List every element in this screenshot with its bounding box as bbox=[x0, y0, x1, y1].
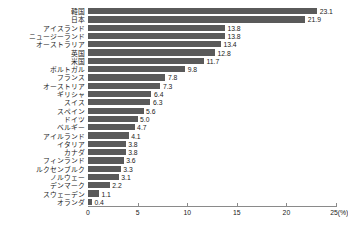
value-label: 11.7 bbox=[207, 57, 220, 64]
bar-row: オランダ0.4 bbox=[88, 198, 336, 206]
cropped-title-remnant bbox=[88, 0, 336, 5]
bar-row: オーストラリア13.4 bbox=[88, 40, 336, 48]
x-axis-tick-label: 10 bbox=[183, 209, 191, 217]
value-label: 21.9 bbox=[308, 16, 321, 23]
bar bbox=[88, 8, 317, 14]
bar bbox=[88, 116, 138, 122]
category-label: デンマーク bbox=[50, 182, 85, 189]
bar-row: 日本21.9 bbox=[88, 15, 336, 23]
bar-row: デンマーク2.2 bbox=[88, 181, 336, 189]
value-label: 2.2 bbox=[112, 182, 121, 189]
bar bbox=[88, 25, 225, 31]
bar bbox=[88, 33, 225, 39]
category-label: ポルトガル bbox=[50, 66, 85, 73]
bar-row: スウェーデン1.1 bbox=[88, 189, 336, 197]
value-label: 3.8 bbox=[128, 140, 137, 147]
bar-row: スペイン5.6 bbox=[88, 107, 336, 115]
bar-row: フランス7.8 bbox=[88, 73, 336, 81]
bar-row: ベルギー4.7 bbox=[88, 123, 336, 131]
bar-row: フィンランド3.6 bbox=[88, 156, 336, 164]
category-label: スウェーデン bbox=[43, 190, 85, 197]
value-label: 0.4 bbox=[94, 198, 103, 205]
bar bbox=[88, 49, 215, 55]
bar bbox=[88, 66, 185, 72]
x-axis-tick bbox=[187, 203, 188, 207]
value-label: 12.8 bbox=[217, 49, 230, 56]
category-label: オーストリア bbox=[43, 82, 85, 89]
value-label: 4.7 bbox=[137, 124, 146, 131]
category-label: フランス bbox=[57, 74, 85, 81]
category-label: カナダ bbox=[64, 149, 85, 156]
value-label: 13.4 bbox=[223, 41, 236, 48]
value-label: 23.1 bbox=[320, 8, 333, 15]
bar bbox=[88, 166, 121, 172]
bar bbox=[88, 174, 119, 180]
bar bbox=[88, 141, 126, 147]
x-axis-tick-label: 0 bbox=[86, 209, 90, 217]
bar bbox=[88, 149, 126, 155]
bar-row: ルクセンブルク3.3 bbox=[88, 165, 336, 173]
category-label: スイス bbox=[64, 99, 85, 106]
category-label: アイスランド bbox=[43, 24, 85, 31]
bar bbox=[88, 124, 135, 130]
x-axis-tick bbox=[286, 203, 287, 207]
value-label: 7.8 bbox=[168, 74, 177, 81]
plot-area: 韓国23.1日本21.9アイスランド13.8ニュージーランド13.8オーストラリ… bbox=[88, 7, 336, 206]
value-label: 9.8 bbox=[188, 66, 197, 73]
bar bbox=[88, 199, 92, 205]
value-label: 3.6 bbox=[126, 157, 135, 164]
bar bbox=[88, 132, 129, 138]
bar-row: ドイツ5.0 bbox=[88, 115, 336, 123]
value-label: 3.1 bbox=[121, 173, 130, 180]
bar-row: 米国11.7 bbox=[88, 57, 336, 65]
category-label: ギリシャ bbox=[57, 91, 85, 98]
value-label: 7.3 bbox=[163, 82, 172, 89]
value-label: 3.8 bbox=[128, 149, 137, 156]
bar-row: カナダ3.8 bbox=[88, 148, 336, 156]
bar bbox=[88, 58, 204, 64]
bar-row: イタリア3.8 bbox=[88, 140, 336, 148]
bar-row: 英国12.8 bbox=[88, 48, 336, 56]
category-label: スペイン bbox=[57, 107, 85, 114]
x-axis-tick bbox=[138, 203, 139, 207]
bar-row: オーストリア7.3 bbox=[88, 82, 336, 90]
category-label: イタリア bbox=[57, 140, 85, 147]
x-axis-tick-label: 20 bbox=[283, 209, 291, 217]
x-axis-line bbox=[88, 206, 337, 207]
value-label: 5.6 bbox=[146, 107, 155, 114]
category-label: 米国 bbox=[71, 57, 85, 64]
value-label: 1.1 bbox=[101, 190, 110, 197]
bar-row: スイス6.3 bbox=[88, 98, 336, 106]
category-label: ドイツ bbox=[64, 115, 85, 122]
bar bbox=[88, 16, 305, 22]
bar-row: アイスランド13.8 bbox=[88, 24, 336, 32]
bar-row: ニュージーランド13.8 bbox=[88, 32, 336, 40]
value-label: 6.4 bbox=[154, 91, 163, 98]
bar bbox=[88, 157, 124, 163]
bar bbox=[88, 41, 221, 47]
category-label: オーストラリア bbox=[36, 41, 85, 48]
value-label: 4.1 bbox=[131, 132, 140, 139]
category-label: 韓国 bbox=[71, 8, 85, 15]
x-axis-tick-label: 15 bbox=[233, 209, 241, 217]
x-axis-tick-label: 5 bbox=[136, 209, 140, 217]
bar bbox=[88, 190, 99, 196]
bar bbox=[88, 99, 150, 105]
x-axis-tick bbox=[336, 203, 337, 207]
bar-row: ノルウェー3.1 bbox=[88, 173, 336, 181]
bar-row: ポルトガル9.8 bbox=[88, 65, 336, 73]
category-label: アイルランド bbox=[43, 132, 85, 139]
category-label: ノルウェー bbox=[50, 173, 85, 180]
category-label: 英国 bbox=[71, 49, 85, 56]
value-label: 3.3 bbox=[123, 165, 132, 172]
value-label: 13.8 bbox=[227, 24, 240, 31]
bar bbox=[88, 74, 165, 80]
bar bbox=[88, 91, 151, 97]
x-axis-tick-label: 25(%) bbox=[330, 209, 348, 217]
category-label: オランダ bbox=[57, 198, 85, 205]
value-label: 6.3 bbox=[153, 99, 162, 106]
bar bbox=[88, 182, 110, 188]
category-label: 日本 bbox=[71, 16, 85, 23]
bar-row: 韓国23.1 bbox=[88, 7, 336, 15]
category-label: フィンランド bbox=[43, 157, 85, 164]
